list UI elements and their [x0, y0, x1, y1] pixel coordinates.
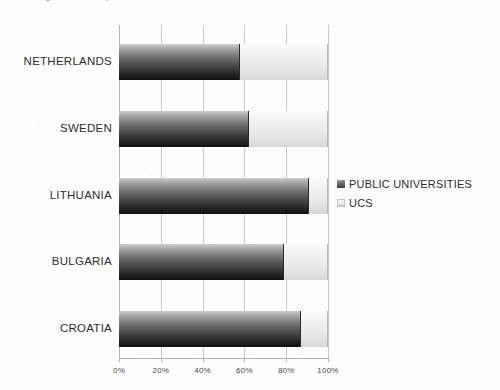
bar-segment-public-universities: [119, 244, 284, 280]
legend-label: PUBLIC UNIVERSITIES: [349, 178, 472, 190]
bar-row: [119, 244, 328, 280]
category-label-bulgaria: BULGARIA: [52, 255, 112, 267]
category-label-croatia: CROATIA: [60, 322, 112, 334]
x-tick: [119, 358, 120, 362]
x-tick: [286, 358, 287, 362]
x-axis-line: [119, 358, 328, 359]
category-label-netherlands: NETHERLANDS: [24, 55, 112, 67]
x-tick-label-100pct: 100%: [317, 366, 338, 375]
legend-swatch-icon: [337, 199, 345, 207]
bar-segment-public-universities: [119, 44, 240, 80]
bar-row: [119, 44, 328, 80]
bar-segment-ucs: [284, 244, 328, 280]
legend-label: UCS: [349, 197, 373, 209]
stacked-bar-chart: NETHERLANDSSWEDENLITHUANIABULGARIACROATI…: [0, 0, 500, 390]
bar-segment-ucs: [249, 111, 328, 147]
gridline-100pct: [328, 25, 329, 358]
legend-item-public-universities[interactable]: PUBLIC UNIVERSITIES: [337, 174, 472, 193]
x-tick: [244, 358, 245, 362]
x-tick-label-60pct: 60%: [236, 366, 253, 375]
category-label-lithuania: LITHUANIA: [50, 189, 112, 201]
x-tick: [328, 358, 329, 362]
x-tick: [161, 358, 162, 362]
x-tick-label-0pct: 0%: [113, 366, 125, 375]
bar-segment-public-universities: [119, 178, 309, 214]
x-tick: [203, 358, 204, 362]
bar-segment-ucs: [301, 311, 328, 347]
bar-row: [119, 178, 328, 214]
bar-row: [119, 111, 328, 147]
chart-legend: PUBLIC UNIVERSITIESUCS: [337, 174, 472, 212]
x-tick-label-80pct: 80%: [278, 366, 295, 375]
bar-segment-ucs: [309, 178, 328, 214]
bar-segment-public-universities: [119, 311, 301, 347]
plot-area: [119, 25, 328, 358]
bar-segment-public-universities: [119, 111, 249, 147]
bar-segment-ucs: [240, 44, 328, 80]
legend-swatch-icon: [337, 180, 345, 188]
category-label-sweden: SWEDEN: [60, 122, 112, 134]
bar-row: [119, 311, 328, 347]
x-tick-label-40pct: 40%: [194, 366, 211, 375]
x-tick-label-20pct: 20%: [152, 366, 169, 375]
legend-item-ucs[interactable]: UCS: [337, 193, 472, 212]
